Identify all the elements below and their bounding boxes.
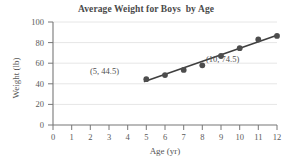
y-axis-title: Weight (lb) <box>11 43 21 113</box>
y-tick-marks <box>48 22 53 125</box>
x-tick-label: 2 <box>88 132 92 142</box>
x-tick-label: 10 <box>235 132 244 142</box>
point-annotation: (5, 44.5) <box>90 66 119 76</box>
data-point <box>199 62 205 68</box>
x-tick-label: 4 <box>126 132 130 142</box>
x-tick-label: 7 <box>182 132 186 142</box>
data-point <box>143 76 149 82</box>
point-annotation: (10, 74.5) <box>206 54 239 64</box>
data-point <box>255 37 261 43</box>
data-point <box>274 33 280 39</box>
x-tick-label: 1 <box>70 132 74 142</box>
x-tick-label: 8 <box>200 132 204 142</box>
x-tick-label: 12 <box>273 132 282 142</box>
x-axis-title: Age (yr) <box>53 146 277 156</box>
data-point <box>237 45 243 51</box>
x-tick-label: 9 <box>219 132 223 142</box>
x-tick-marks <box>53 125 277 130</box>
x-tick-label: 6 <box>163 132 167 142</box>
y-tick-label: 0 <box>16 120 44 130</box>
data-point <box>181 67 187 73</box>
x-tick-label: 0 <box>51 132 55 142</box>
x-tick-label: 11 <box>254 132 262 142</box>
gridlines <box>53 22 277 104</box>
data-point <box>162 72 168 78</box>
chart-figure: Average Weight for Boys by Age <box>0 0 292 167</box>
x-tick-label: 5 <box>144 132 148 142</box>
y-tick-label: 100 <box>16 17 44 27</box>
x-tick-label: 3 <box>107 132 111 142</box>
